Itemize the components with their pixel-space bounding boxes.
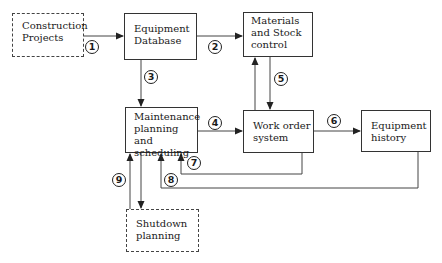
edge-label-5: 5 xyxy=(274,72,288,86)
node-line: Shutdown xyxy=(136,218,198,230)
edge-label-6: 6 xyxy=(327,114,341,128)
edge-label-8: 8 xyxy=(164,173,178,187)
edge-label-1: 1 xyxy=(85,40,99,54)
node-line: planning xyxy=(136,230,198,242)
workflow-diagram: Construction Projects Equipment Database… xyxy=(0,0,442,263)
node-line: Materials xyxy=(251,15,312,27)
node-line: Work order xyxy=(253,120,313,132)
node-line: scheduling xyxy=(134,147,197,159)
maintenance-planning-node: Maintenance planning and scheduling xyxy=(125,107,198,153)
equipment-history-node: Equipment history xyxy=(361,110,431,152)
node-line: planning and xyxy=(134,123,197,147)
equipment-database-node: Equipment Database xyxy=(124,13,197,60)
edge-label-3: 3 xyxy=(144,70,158,84)
node-line: Maintenance xyxy=(134,111,197,123)
edge-label-4: 4 xyxy=(208,116,222,130)
node-line: history xyxy=(371,132,430,144)
shutdown-planning-node: Shutdown planning xyxy=(126,209,199,252)
node-line: Equipment xyxy=(371,120,430,132)
node-line: Database xyxy=(134,35,196,47)
materials-stock-control-node: Materials and Stock control xyxy=(243,12,313,57)
work-order-system-node: Work order system xyxy=(243,110,314,153)
node-line: and Stock xyxy=(251,27,312,39)
edge-label-7: 7 xyxy=(187,156,201,170)
node-line: Projects xyxy=(22,32,83,44)
node-line: control xyxy=(251,39,312,51)
node-line: system xyxy=(253,132,313,144)
node-line: Construction xyxy=(22,20,83,32)
construction-projects-node: Construction Projects xyxy=(12,13,84,57)
node-line: Equipment xyxy=(134,23,196,35)
edge-label-9: 9 xyxy=(112,173,126,187)
edge-label-2: 2 xyxy=(208,40,222,54)
